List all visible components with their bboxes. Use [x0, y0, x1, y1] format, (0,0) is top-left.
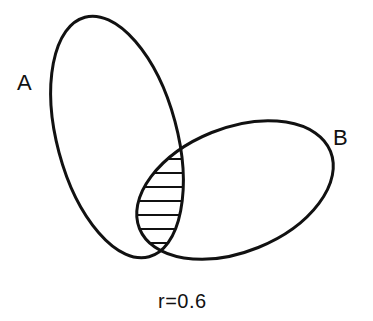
set-a-label: A — [17, 70, 32, 96]
caption: r=0.6 — [158, 290, 207, 313]
venn-diagram — [0, 0, 373, 321]
set-b-label: B — [333, 125, 348, 151]
set-a-ellipse — [27, 2, 207, 273]
